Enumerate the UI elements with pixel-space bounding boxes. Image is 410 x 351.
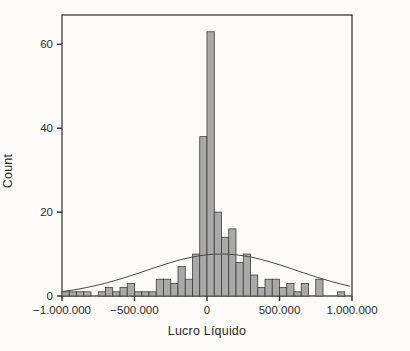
- histogram-bar: [222, 237, 229, 296]
- x-axis-label: Lucro Líquido: [62, 324, 352, 338]
- histogram-bar: [316, 279, 323, 296]
- histogram-bar: [229, 229, 236, 296]
- plot-area: −1.000.000−500.0000500.0001.000.00002040…: [0, 0, 410, 351]
- y-tick-label: 0: [47, 290, 53, 302]
- y-axis-label: Count: [1, 101, 15, 241]
- histogram-bar: [106, 288, 113, 296]
- x-tick-label: 500.000: [259, 304, 301, 316]
- histogram-bar: [127, 283, 134, 296]
- x-tick-label: −500.000: [110, 304, 158, 316]
- histogram-bar: [142, 292, 149, 296]
- histogram-bar: [287, 283, 294, 296]
- histogram-bar: [294, 292, 301, 296]
- histogram-bar: [185, 279, 192, 296]
- histogram-bar: [156, 279, 163, 296]
- histogram-bar: [120, 288, 127, 296]
- x-tick-label: −1.000.000: [33, 304, 91, 316]
- histogram-bar: [207, 32, 214, 296]
- histogram-bar: [236, 262, 243, 296]
- histogram-bar: [265, 279, 272, 296]
- histogram-bar: [272, 279, 279, 296]
- histogram-bar: [164, 279, 171, 296]
- histogram-bar: [200, 137, 207, 296]
- x-tick-label: 0: [204, 304, 210, 316]
- histogram-bar: [171, 283, 178, 296]
- x-tick-label: 1.000.000: [326, 304, 377, 316]
- histogram-bar: [84, 292, 91, 296]
- histogram-bar: [178, 267, 185, 296]
- histogram-bar: [77, 292, 84, 296]
- histogram-bar: [280, 288, 287, 296]
- histogram-bar: [258, 288, 265, 296]
- histogram-bar: [251, 275, 258, 296]
- histogram-bar: [69, 292, 76, 296]
- histogram-bar: [62, 292, 69, 296]
- y-tick-label: 20: [40, 206, 53, 218]
- histogram-bar: [149, 292, 156, 296]
- histogram-bar: [243, 254, 250, 296]
- y-tick-label: 60: [40, 38, 53, 50]
- histogram-bar: [113, 292, 120, 296]
- histogram-bar: [338, 292, 345, 296]
- histogram-bar: [301, 283, 308, 296]
- histogram-bar: [98, 292, 105, 296]
- histogram-bar: [193, 254, 200, 296]
- histogram-bar: [135, 292, 142, 296]
- histogram-figure: −1.000.000−500.0000500.0001.000.00002040…: [0, 0, 410, 351]
- y-tick-label: 40: [40, 122, 53, 134]
